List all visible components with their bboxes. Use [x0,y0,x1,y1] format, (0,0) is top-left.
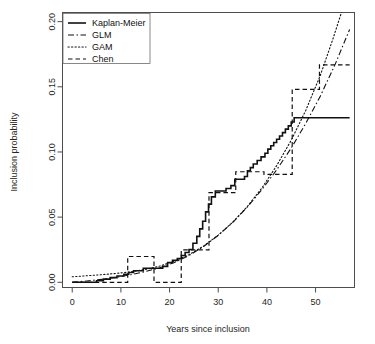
x-tick-label: 20 [165,297,175,307]
x-tick-label: 0 [70,297,75,307]
y-tick-label: 0.00 [47,274,57,292]
legend-label-kaplan-meier: Kaplan-Meier [92,18,146,28]
x-tick-label: 50 [311,297,321,307]
x-tick-label: 30 [213,297,223,307]
legend-label-glm: GLM [92,30,112,40]
chart-figure: 01020304050 0.000.050.100.150.20 Years s… [0,0,375,344]
y-tick-label: 0.20 [47,13,57,31]
legend-label-gam: GAM [92,42,113,52]
inclusion-probability-chart: 01020304050 0.000.050.100.150.20 Years s… [0,0,375,344]
legend-label-chen: Chen [92,54,114,64]
y-tick-label: 0.15 [47,78,57,96]
x-tick-label: 40 [262,297,272,307]
y-tick-label: 0.10 [47,143,57,161]
x-axis-title: Years since inclusion [166,324,250,334]
y-tick-label: 0.05 [47,208,57,226]
chart-background [0,0,375,344]
chart-legend: Kaplan-MeierGLMGAMChen [63,14,150,65]
y-axis-title: Inclusion probability [9,112,19,192]
x-tick-label: 10 [116,297,126,307]
